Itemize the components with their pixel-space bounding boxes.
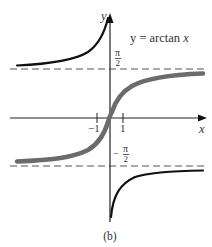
lower-black-curve xyxy=(111,171,203,218)
tick-label-neg1: −1 xyxy=(88,122,100,134)
tick-label-pos1: 1 xyxy=(120,122,126,134)
x-axis-label: x xyxy=(198,122,205,136)
pi-half-den: 2 xyxy=(116,58,121,68)
y-axis-label: y xyxy=(99,9,107,23)
figure-caption: (b) xyxy=(103,230,117,243)
neg-pi-half-sign: − xyxy=(113,148,119,159)
neg-pi-half-num: π xyxy=(123,143,128,154)
title-label: y = arctan x xyxy=(130,31,189,45)
pi-half-num: π xyxy=(115,47,120,58)
x-axis-arrow-icon xyxy=(198,115,207,122)
neg-pi-half-den: 2 xyxy=(124,154,129,164)
upper-black-curve xyxy=(17,18,108,66)
arctan-chart: y = arctan x y x −1 1 π 2 − π 2 (b) xyxy=(0,0,212,247)
